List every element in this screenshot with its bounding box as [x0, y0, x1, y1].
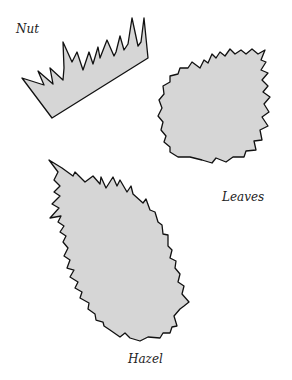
- nut-husk-shape: [22, 18, 148, 118]
- label-leaves: Leaves: [222, 190, 264, 204]
- leaf-shape: [158, 49, 270, 163]
- label-nut: Nut: [16, 22, 39, 36]
- hazel-leaf-shape: [49, 160, 189, 341]
- label-hazel: Hazel: [128, 352, 163, 366]
